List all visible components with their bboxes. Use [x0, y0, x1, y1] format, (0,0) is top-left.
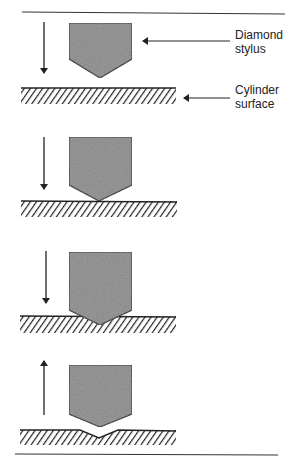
- stylus-diagram: [0, 0, 298, 467]
- stylus-label-line2: stylus: [235, 43, 283, 55]
- surface-label: Cylinder surface: [235, 84, 279, 110]
- bottom-rule: [15, 454, 278, 455]
- diamond-stylus: [69, 252, 132, 325]
- surface-label-line2: surface: [235, 98, 279, 110]
- top-rule: [22, 12, 285, 14]
- panel-3: [20, 251, 176, 333]
- cylinder-surface: [21, 88, 176, 104]
- diamond-stylus: [69, 365, 132, 427]
- surface-label-line1: Cylinder: [235, 84, 279, 96]
- panel-2: [21, 137, 177, 217]
- diamond-stylus: [69, 23, 132, 78]
- stylus-label-line1: Diamond: [235, 29, 283, 41]
- panel-1: [21, 22, 230, 104]
- stylus-label: Diamond stylus: [235, 29, 283, 55]
- diamond-stylus: [69, 137, 132, 201]
- cylinder-surface: [21, 201, 177, 217]
- panel-4: [20, 361, 176, 445]
